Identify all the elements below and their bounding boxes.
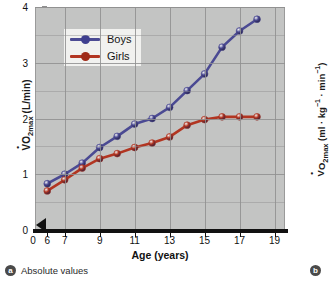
gridline-vertical (170, 7, 171, 230)
data-point (219, 44, 226, 51)
gridline-horizontal (35, 174, 285, 175)
x-tick-mark (135, 233, 136, 237)
gridline-horizontal-minor (35, 202, 285, 203)
axis-break-arrow-icon (33, 216, 49, 234)
caption-badge-b: b (310, 265, 321, 276)
legend-label-girls: Girls (107, 50, 130, 62)
x-tick-label: 0 (30, 235, 36, 246)
gridline-horizontal-minor (35, 91, 285, 92)
y-tick-label: 1 (14, 169, 28, 180)
data-point (184, 122, 191, 129)
x-tick-mark (65, 233, 66, 237)
plot-area: Boys Girls (35, 7, 285, 230)
gridline-vertical (65, 7, 66, 230)
y-tick-label: 0 (14, 225, 28, 236)
x-axis-label: Age (years) (35, 249, 285, 261)
y-tick-label: 2 (14, 113, 28, 124)
data-point (44, 188, 51, 195)
data-point (254, 16, 261, 23)
x-tick-mark (170, 233, 171, 237)
data-point (114, 133, 121, 140)
gridline-vertical (240, 7, 241, 230)
panel-b-y-axis-label: VO2max (ml · kg−1 · min−1) (314, 20, 329, 220)
gridline-horizontal (35, 63, 285, 64)
y-tick-label: 3 (14, 57, 28, 68)
gridline-vertical (275, 7, 276, 230)
x-axis-bar (33, 229, 288, 233)
data-point (114, 150, 121, 157)
y-tick-label: 4 (14, 2, 28, 13)
caption-badge-a: a (5, 265, 16, 276)
gridline-vertical (135, 7, 136, 230)
y-axis-ticks: 01234 (12, 0, 28, 281)
gridline-horizontal (35, 119, 285, 120)
gridline-horizontal-minor (35, 146, 285, 147)
gridline-horizontal (35, 7, 285, 8)
gridline-vertical (205, 7, 206, 230)
caption-text-a: Absolute values (21, 265, 88, 276)
gridline-vertical (100, 7, 101, 230)
legend-item-girls: Girls (70, 50, 131, 62)
caption-a: a Absolute values (5, 265, 88, 276)
legend-swatch-girls (70, 52, 100, 61)
x-tick-mark (205, 233, 206, 237)
x-tick-mark (240, 233, 241, 237)
data-point (44, 180, 51, 187)
gridline-horizontal-minor (35, 35, 285, 36)
data-point (79, 165, 86, 172)
series-line-girls (47, 117, 257, 191)
x-tick-mark (100, 233, 101, 237)
caption-b: b (310, 265, 321, 276)
x-tick-mark (275, 233, 276, 237)
panel-a-absolute-values: VO2max (L/min) 01234 Boys Girls (0, 0, 292, 281)
x-tick-mark (47, 233, 48, 237)
